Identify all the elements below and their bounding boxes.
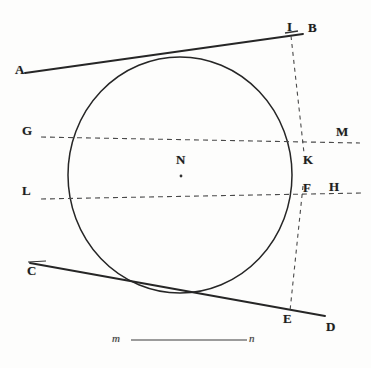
label-point-h: H: [329, 180, 339, 193]
label-scale-n: n: [249, 333, 255, 344]
label-point-n: N: [176, 153, 186, 166]
geometry-svg: [0, 0, 371, 368]
label-point-b: B: [308, 21, 317, 34]
secant-line-gkm: [41, 137, 360, 143]
perpendicular-line-ik: [291, 36, 304, 153]
circle-shape: [68, 57, 292, 293]
perpendicular-line-fe: [290, 186, 303, 311]
label-point-l: L: [22, 184, 31, 197]
label-point-a: A: [15, 63, 25, 76]
intersection-point-n: [180, 175, 183, 178]
label-point-m: M: [336, 125, 348, 138]
secant-line-lfh: [41, 193, 362, 199]
tangent-line-ab: [25, 34, 303, 73]
label-point-c: C: [27, 264, 37, 277]
label-point-g: G: [22, 124, 32, 137]
label-point-k: K: [303, 153, 313, 166]
label-point-d: D: [326, 320, 336, 333]
tick-mark-c: [28, 261, 46, 262]
tangent-line-cd: [30, 263, 325, 316]
label-point-e: E: [283, 312, 292, 325]
figure-canvas: A B C D E F G H I K L M N m n: [0, 0, 371, 368]
label-point-i: I: [287, 20, 292, 33]
label-point-f: F: [303, 181, 311, 194]
label-scale-m: m: [112, 333, 120, 344]
